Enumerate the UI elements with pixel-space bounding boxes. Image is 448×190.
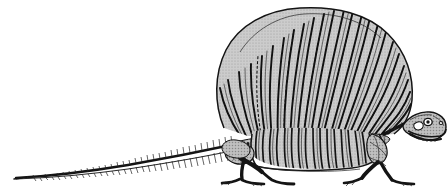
orbit-pupil	[426, 120, 429, 123]
temporal-fenestra	[414, 122, 424, 130]
illustration-canvas	[0, 0, 448, 190]
tail-tip	[14, 178, 22, 179]
dimetrodon-skeleton-drawing	[0, 0, 448, 190]
